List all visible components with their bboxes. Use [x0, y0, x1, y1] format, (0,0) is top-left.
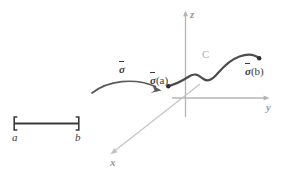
curve-end-point — [257, 56, 261, 60]
curve-end-argument: (b) — [251, 65, 264, 77]
curve-end-label: σ(b) — [245, 62, 264, 78]
coordinate-axes — [111, 11, 270, 155]
curve-start-label: σ(a) — [150, 71, 168, 87]
z-axis-label: z — [190, 9, 194, 20]
sigma-symbol: σ — [119, 64, 125, 75]
interval-endpoint-a-label: a — [12, 132, 18, 143]
figure-canvas: z y x a b σ σ(a) σ(b) C — [0, 0, 285, 173]
x-axis — [111, 84, 201, 154]
interval-endpoint-b-label: b — [75, 132, 81, 143]
z-axis-arrowhead — [183, 11, 188, 17]
sigma-symbol-end: σ — [245, 66, 251, 77]
y-axis — [172, 96, 270, 101]
sigma-symbol-start: σ — [150, 75, 156, 86]
curve-c-label: C — [202, 49, 209, 60]
curve-start-argument: (a) — [156, 74, 168, 86]
x-axis-label: x — [110, 157, 116, 168]
figure-vector-graphics — [0, 0, 285, 173]
z-axis — [183, 11, 188, 118]
sigma-map-label: σ — [119, 64, 125, 75]
y-axis-arrowhead — [264, 96, 270, 101]
y-axis-label: y — [266, 102, 271, 113]
x-axis-line — [115, 84, 201, 151]
sigma-arrow-shaft — [92, 81, 156, 93]
interval-segment — [14, 117, 79, 130]
